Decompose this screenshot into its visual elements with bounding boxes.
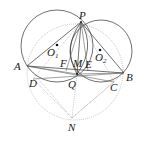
dotted-BN [72, 73, 124, 118]
label-O2: O2 [95, 51, 107, 65]
dotted-DN [33, 79, 72, 118]
dotted-AN [27, 66, 72, 118]
label-C: C [110, 81, 118, 93]
label-N: N [67, 121, 76, 133]
label-F: F [59, 57, 67, 69]
label-B: B [126, 71, 133, 83]
label-Q: Q [68, 78, 76, 90]
label-M: M [72, 57, 83, 69]
label-D: D [28, 77, 37, 89]
geometry-diagram: P A B C D F M E Q N O1 O2 [0, 0, 143, 145]
line-AQ [27, 66, 77, 74]
label-A: A [13, 60, 21, 72]
label-P: P [78, 9, 86, 21]
dotted-PD [33, 22, 81, 79]
point-p-dot [80, 21, 82, 23]
point-q-dot [76, 73, 78, 75]
center-o1-dot [56, 44, 59, 47]
label-E: E [84, 58, 92, 70]
label-O1: O1 [47, 46, 58, 60]
